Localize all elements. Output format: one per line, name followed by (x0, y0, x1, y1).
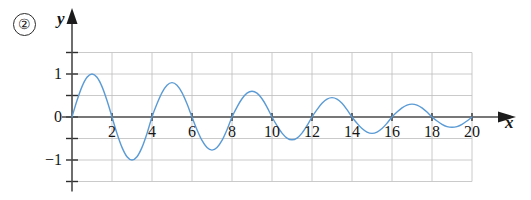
x-tick-label: 4 (148, 123, 156, 141)
y-axis-arrowhead (67, 8, 78, 24)
x-tick-label: 16 (384, 123, 400, 141)
x-tick-label: 10 (264, 123, 280, 141)
x-tick-label: 12 (304, 123, 320, 141)
x-tick-label: 6 (188, 123, 196, 141)
y-tick-label: 0 (32, 108, 62, 126)
x-tick-label: 8 (228, 123, 236, 141)
figure-container: ② y x 2468101214161820 10−1 (0, 0, 531, 200)
x-tick-label: 2 (108, 123, 116, 141)
x-axis-label: x (505, 113, 514, 133)
x-tick-label: 18 (424, 123, 440, 141)
y-axis-label: y (57, 9, 65, 29)
y-tick-label: −1 (32, 151, 62, 169)
y-tick-label: 1 (32, 65, 62, 83)
x-tick-label: 20 (464, 123, 480, 141)
plot-area (0, 0, 531, 200)
figure-index-badge: ② (13, 13, 36, 36)
x-tick-label: 14 (344, 123, 360, 141)
